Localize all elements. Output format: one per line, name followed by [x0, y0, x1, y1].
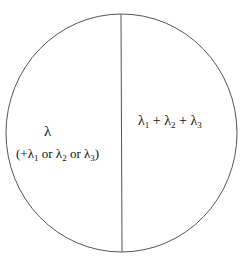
circle-diagram — [0, 0, 242, 261]
divider-line — [121, 14, 122, 252]
left-region-symbol: λ — [44, 124, 51, 139]
right-region-sum: λ1 + λ2 + λ3 — [138, 114, 202, 130]
left-region-note: (+λ1 or λ2 or λ3) — [16, 147, 99, 163]
